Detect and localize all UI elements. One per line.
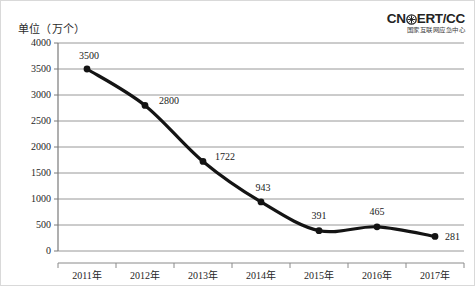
y-tick-label: 4000 <box>31 37 51 48</box>
data-point-marker <box>142 102 149 109</box>
y-tick-label: 2000 <box>31 141 51 152</box>
y-tick-label: 1000 <box>31 193 51 204</box>
data-point-marker <box>200 158 207 165</box>
y-tick-label: 1500 <box>31 167 51 178</box>
series-value-labels: 350028001722943391465281 <box>79 50 460 242</box>
data-point-label: 281 <box>445 231 460 242</box>
data-point-label: 943 <box>256 182 271 193</box>
x-category-label: 2015年 <box>304 269 334 281</box>
x-axis-category-labels: 2011年2012年2013年2014年2015年2016年2017年 <box>72 269 450 281</box>
gridlines <box>58 43 464 251</box>
x-category-label: 2013年 <box>188 269 218 281</box>
x-axis-ticks <box>58 263 464 268</box>
y-tick-label: 500 <box>36 219 51 230</box>
x-category-label: 2014年 <box>246 269 276 281</box>
data-point-marker <box>84 66 91 73</box>
data-point-marker <box>432 233 439 240</box>
data-point-label: 1722 <box>215 151 235 162</box>
y-tick-label: 3500 <box>31 63 51 74</box>
x-category-label: 2011年 <box>72 269 102 281</box>
data-point-marker <box>316 227 323 234</box>
y-tick-label: 3000 <box>31 89 51 100</box>
y-tick-label: 2500 <box>31 115 51 126</box>
x-category-label: 2016年 <box>362 269 392 281</box>
y-tick-label: 0 <box>46 245 51 256</box>
data-point-label: 2800 <box>159 95 179 106</box>
x-category-label: 2017年 <box>420 269 450 281</box>
data-point-label: 465 <box>370 206 385 217</box>
x-category-label: 2012年 <box>130 269 160 281</box>
data-point-label: 3500 <box>79 50 99 61</box>
data-point-marker <box>374 223 381 230</box>
y-axis-tick-labels: 05001000150020002500300035004000 <box>31 37 51 256</box>
data-point-marker <box>258 199 265 206</box>
line-chart: 05001000150020002500300035004000 2011年20… <box>1 1 475 286</box>
series-markers <box>84 66 439 240</box>
data-point-label: 391 <box>312 210 327 221</box>
chart-figure: 单位（万个） CN ERT/CC 国家互联网应急中心 0500100015002… <box>0 0 475 286</box>
